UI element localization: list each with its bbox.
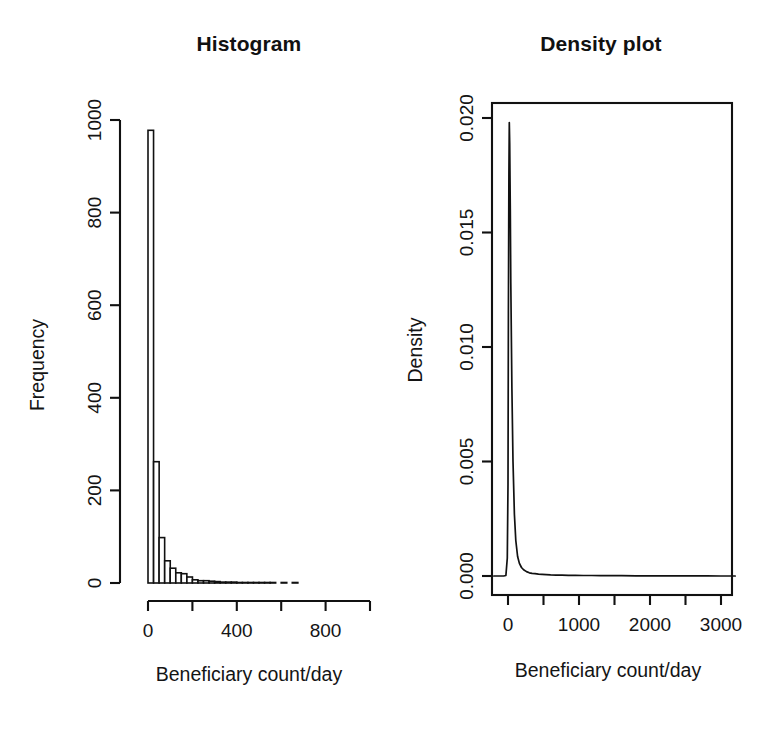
histogram-bars — [148, 130, 298, 583]
xtick-label-2000: 2000 — [629, 614, 671, 635]
table-row — [270, 583, 276, 584]
table-row — [159, 538, 165, 583]
density-x-ticks — [508, 595, 721, 605]
ytick-label-0-000: 0.000 — [456, 552, 477, 600]
xtick-label-800: 800 — [310, 620, 342, 641]
table-row — [181, 574, 187, 583]
density-title: Density plot — [540, 32, 661, 55]
histogram-panel: Histogram 0 200 400 600 800 1000 — [0, 0, 390, 730]
ytick-label-0-020: 0.020 — [456, 94, 477, 142]
density-x-axis-title: Beneficiary count/day — [515, 659, 702, 681]
histogram-svg: Histogram 0 200 400 600 800 1000 — [0, 0, 390, 730]
ytick-label-0-015: 0.015 — [456, 209, 477, 257]
xtick-label-3000: 3000 — [700, 614, 742, 635]
histogram-y-axis-title: Frequency — [26, 319, 48, 411]
histogram-x-ticks — [148, 601, 370, 611]
xtick-label-0: 0 — [143, 620, 154, 641]
table-row — [170, 568, 176, 583]
table-row — [148, 130, 154, 583]
table-row — [237, 583, 243, 584]
table-row — [226, 582, 232, 583]
figure-two-panel: Histogram 0 200 400 600 800 1000 — [0, 0, 776, 730]
ytick-label-600: 600 — [84, 289, 105, 321]
density-curve — [494, 123, 735, 576]
histogram-x-tick-labels: 0 400 800 — [143, 620, 342, 641]
table-row — [192, 580, 198, 583]
table-row — [204, 581, 210, 583]
ytick-label-0: 0 — [84, 578, 105, 589]
ytick-label-400: 400 — [84, 382, 105, 414]
table-row — [215, 582, 221, 583]
density-svg: Density plot 0.000 0.005 0.010 0.015 0.0… — [386, 0, 776, 730]
ytick-label-1000: 1000 — [84, 99, 105, 141]
histogram-y-ticks — [110, 120, 120, 583]
density-y-tick-labels: 0.000 0.005 0.010 0.015 0.020 — [456, 94, 477, 600]
table-row — [248, 583, 254, 584]
xtick-label-1000: 1000 — [558, 614, 600, 635]
ytick-label-0-010: 0.010 — [456, 323, 477, 371]
density-x-tick-labels: 0 1000 2000 3000 — [503, 614, 742, 635]
xtick-label-400: 400 — [221, 620, 253, 641]
histogram-x-axis-title: Beneficiary count/day — [156, 663, 343, 685]
table-row — [292, 583, 298, 584]
ytick-label-800: 800 — [84, 197, 105, 229]
ytick-label-0-005: 0.005 — [456, 438, 477, 486]
histogram-title: Histogram — [197, 32, 302, 55]
density-plot-box — [492, 103, 732, 595]
table-row — [259, 583, 265, 584]
table-row — [281, 583, 287, 584]
xtick-label-0: 0 — [503, 614, 514, 635]
ytick-label-200: 200 — [84, 475, 105, 507]
density-y-ticks — [482, 118, 492, 576]
histogram-y-tick-labels: 0 200 400 600 800 1000 — [84, 99, 105, 588]
density-y-axis-title: Density — [404, 317, 426, 382]
density-panel: Density plot 0.000 0.005 0.010 0.015 0.0… — [386, 0, 776, 730]
